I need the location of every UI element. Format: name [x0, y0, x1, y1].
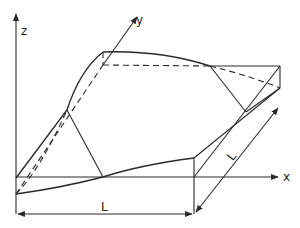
surface-diagram: z x y L: [0, 0, 300, 228]
dimension-y-label: L: [224, 149, 239, 163]
z-axis-label: z: [21, 24, 27, 38]
x-axis-label: x: [283, 170, 290, 184]
y-axis-label: y: [136, 13, 143, 27]
dimension-x-label: L: [101, 200, 108, 214]
surface-edges: [16, 52, 280, 214]
y-axis: [16, 17, 137, 194]
